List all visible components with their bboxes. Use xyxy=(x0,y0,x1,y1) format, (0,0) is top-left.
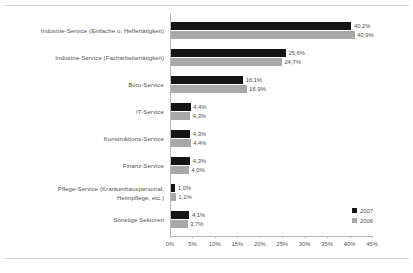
bar-value-label: 16,9% xyxy=(247,85,266,93)
bar-2007: 4,3% xyxy=(171,130,190,138)
category-label-row: Büro-Service xyxy=(0,72,168,99)
category-label-row: Industrie-Service (Facharbeitertätigkeit… xyxy=(0,45,168,72)
bar-value-label: 4,4% xyxy=(191,139,207,147)
bar-2007: 40,2% xyxy=(171,22,351,30)
bar-value-label: 1,1% xyxy=(176,193,192,201)
top-divider xyxy=(4,5,409,6)
x-tick-label: 0% xyxy=(166,240,174,248)
category-label-row: Konstruktions-Service xyxy=(0,126,168,153)
bar-group: 4,1%3,7% xyxy=(171,210,373,232)
bar-value-label: 40,2% xyxy=(351,22,370,30)
bar-2006: 3,7% xyxy=(171,220,188,228)
legend-label-2007: 2007 xyxy=(360,207,373,215)
bar-group: 4,3%4,4% xyxy=(171,129,373,151)
bar-group: 1,0%1,1% xyxy=(171,183,373,205)
x-tick-label: 5% xyxy=(188,240,196,248)
x-tickmark xyxy=(237,236,238,238)
bar-2006: 24,7% xyxy=(171,58,282,66)
category-label: Büro-Service xyxy=(128,81,168,89)
x-tickmark xyxy=(305,236,306,238)
x-tick-label: 40% xyxy=(344,240,356,248)
bar-2006: 4,3% xyxy=(171,112,190,120)
bar-group: 4,4%4,3% xyxy=(171,102,373,124)
bar-2006: 4,4% xyxy=(171,139,191,147)
bar-2007: 1,0% xyxy=(171,184,175,192)
category-axis: Industrie-Service (Einfache u. Helfertät… xyxy=(0,14,168,236)
x-tickmark xyxy=(327,236,328,238)
category-label: Industrie-Service (Einfache u. Helfertät… xyxy=(41,27,168,35)
x-tick-label: 25% xyxy=(276,240,288,248)
bar-value-label: 4,3% xyxy=(190,112,206,120)
x-axis-line xyxy=(170,236,372,237)
category-label: IT-Service xyxy=(136,108,168,116)
bar-group: 25,6%24,7% xyxy=(171,48,373,70)
category-label-row: Industrie-Service (Einfache u. Helfertät… xyxy=(0,18,168,45)
bottom-divider xyxy=(4,258,409,259)
bar-2007: 4,4% xyxy=(171,103,191,111)
x-tickmark xyxy=(215,236,216,238)
x-axis: 0%5%10%15%20%25%30%35%40%45% xyxy=(170,236,392,256)
x-tickmark xyxy=(282,236,283,238)
bar-value-label: 25,6% xyxy=(286,49,305,57)
bar-2006: 1,1% xyxy=(171,193,176,201)
legend-item-2007: 2007 xyxy=(352,206,408,215)
bar-value-label: 4,1% xyxy=(189,211,205,219)
x-tickmark xyxy=(192,236,193,238)
category-label: Finanz-Service xyxy=(123,162,168,170)
bar-plot-region: 40,2%40,9%25,6%24,7%16,1%16,9%4,4%4,3%4,… xyxy=(170,14,392,236)
bar-value-label: 4,3% xyxy=(190,130,206,138)
bar-value-label: 24,7% xyxy=(282,58,301,66)
x-tickmark xyxy=(350,236,351,238)
chart-figure: Industrie-Service (Einfache u. Helfertät… xyxy=(0,0,413,273)
category-label-row: IT-Service xyxy=(0,99,168,126)
bar-value-label: 1,0% xyxy=(175,184,191,192)
bar-value-label: 3,7% xyxy=(188,220,204,228)
x-tick-label: 45% xyxy=(366,240,378,248)
bar-2006: 16,9% xyxy=(171,85,247,93)
category-label-row: Finanz-Service xyxy=(0,153,168,180)
x-tick-label: 35% xyxy=(321,240,333,248)
x-tick-label: 10% xyxy=(209,240,221,248)
bar-2007: 4,3% xyxy=(171,157,190,165)
x-tickmark xyxy=(260,236,261,238)
bar-2007: 25,6% xyxy=(171,49,286,57)
bar-2007: 16,1% xyxy=(171,76,243,84)
x-tickmark xyxy=(170,236,171,238)
legend-item-2006: 2006 xyxy=(352,216,408,225)
bar-group: 40,2%40,9% xyxy=(171,21,373,43)
category-label: Pflege-Service (Krankenhauspersonal, Hei… xyxy=(58,185,168,201)
bar-2006: 4,0% xyxy=(171,166,189,174)
category-label: Konstruktions-Service xyxy=(104,135,168,143)
x-tick-label: 15% xyxy=(232,240,244,248)
bar-2006: 40,9% xyxy=(171,31,355,39)
chart-legend: 2007 2006 xyxy=(352,206,408,226)
x-tick-label: 30% xyxy=(299,240,311,248)
category-label-row: Sonstige Sektoren xyxy=(0,207,168,234)
legend-swatch-icon-2007 xyxy=(352,208,357,213)
x-tick-label: 20% xyxy=(254,240,266,248)
bar-value-label: 40,9% xyxy=(355,31,374,39)
category-label: Industrie-Service (Facharbeitertätigkeit… xyxy=(55,54,168,62)
bar-value-label: 16,1% xyxy=(243,76,262,84)
legend-swatch-icon-2006 xyxy=(352,218,357,223)
bar-group: 16,1%16,9% xyxy=(171,75,373,97)
category-label: Sonstige Sektoren xyxy=(113,216,168,224)
bar-value-label: 4,0% xyxy=(189,166,205,174)
bar-value-label: 4,4% xyxy=(191,103,207,111)
bar-2007: 4,1% xyxy=(171,211,189,219)
bar-value-label: 4,3% xyxy=(190,157,206,165)
legend-label-2006: 2006 xyxy=(360,217,373,225)
x-tickmark xyxy=(372,236,373,238)
bar-group: 4,3%4,0% xyxy=(171,156,373,178)
category-label-row: Pflege-Service (Krankenhauspersonal, Hei… xyxy=(0,180,168,207)
